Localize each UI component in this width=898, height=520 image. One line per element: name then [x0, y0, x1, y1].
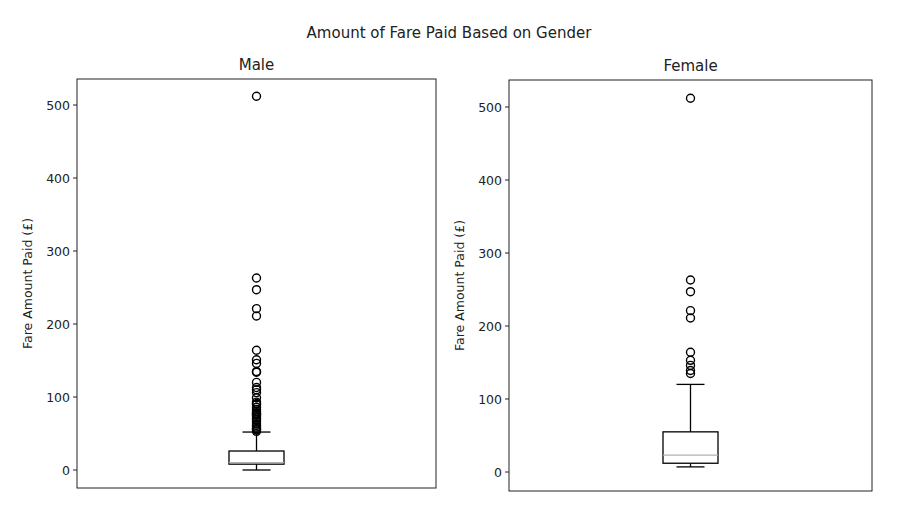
- subplot-title: Female: [663, 57, 717, 75]
- y-tick-label: 400: [46, 171, 70, 186]
- outlier-point: [253, 346, 261, 354]
- outlier-point: [687, 94, 695, 102]
- outlier-point: [253, 92, 261, 100]
- y-tick-label: 200: [46, 317, 70, 332]
- subplot-female: Female0100200300400500Fare Amount Paid (…: [452, 57, 872, 491]
- y-axis-label: Fare Amount Paid (£): [452, 220, 467, 351]
- y-tick-label: 400: [478, 173, 502, 188]
- outlier-point: [687, 348, 695, 356]
- y-tick-label: 300: [478, 246, 502, 261]
- y-axis-label: Fare Amount Paid (£): [20, 218, 35, 349]
- y-tick-label: 0: [62, 463, 70, 478]
- subplot-male: Male0100200300400500Fare Amount Paid (£): [20, 56, 436, 488]
- boxplot-figure: Male0100200300400500Fare Amount Paid (£)…: [0, 0, 898, 520]
- iqr-box: [663, 432, 718, 463]
- y-tick-label: 100: [46, 390, 70, 405]
- outlier-point: [687, 276, 695, 284]
- y-tick-label: 500: [478, 100, 502, 115]
- outlier-point: [687, 288, 695, 296]
- y-tick-label: 200: [478, 319, 502, 334]
- y-tick-label: 0: [494, 465, 502, 480]
- outlier-point: [253, 274, 261, 282]
- outlier-point: [253, 286, 261, 294]
- y-tick-label: 300: [46, 244, 70, 259]
- subplot-title: Male: [239, 56, 275, 74]
- y-tick-label: 500: [46, 98, 70, 113]
- y-tick-label: 100: [478, 392, 502, 407]
